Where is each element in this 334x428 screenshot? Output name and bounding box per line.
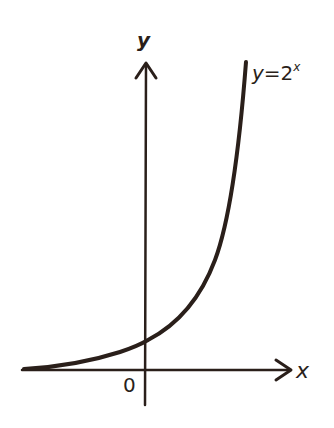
y-axis-label: y (137, 28, 150, 52)
curve-label-exponent: x (293, 60, 300, 74)
origin-label: 0 (123, 373, 136, 397)
curve-label-equals: = (264, 61, 281, 85)
y-axis (145, 64, 146, 405)
x-axis-label: x (296, 358, 309, 383)
curve-label: y=2x (252, 60, 300, 85)
curve-label-base: 2 (281, 61, 294, 85)
exponential-curve (24, 62, 246, 369)
curve-label-lhs: y (252, 61, 264, 85)
